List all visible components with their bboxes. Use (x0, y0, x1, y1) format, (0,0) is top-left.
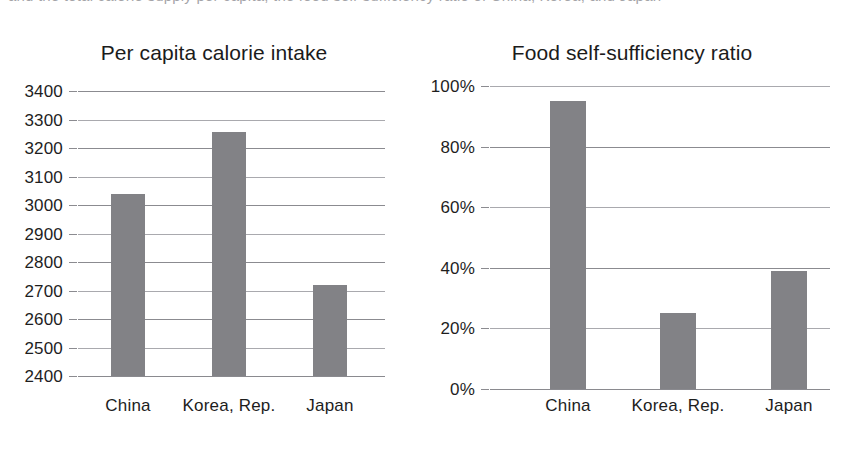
y-axis-tick (481, 328, 489, 329)
bar-japan (771, 271, 807, 389)
gridline (490, 147, 830, 148)
y-axis-tick (481, 147, 489, 148)
y-axis-label: 40% (413, 260, 475, 277)
y-axis-tick (69, 205, 77, 206)
y-axis-tick (481, 86, 489, 87)
y-axis-label: 3200 (1, 140, 63, 157)
bar-china (550, 101, 586, 389)
y-axis-tick (69, 120, 77, 121)
bar-korea-rep (212, 132, 246, 376)
chart-per-capita-calorie-intake: Per capita calorie intake 24002500260027… (0, 0, 424, 451)
bar-japan (313, 285, 347, 376)
chart-title-right: Food self-sufficiency ratio (420, 40, 844, 66)
chart-title-left: Per capita calorie intake (2, 40, 426, 66)
y-axis-label: 2900 (1, 226, 63, 243)
x-axis-label: Japan (260, 397, 400, 415)
y-axis-label: 2700 (1, 283, 63, 300)
y-axis-label: 2500 (1, 340, 63, 357)
y-axis-label: 3400 (1, 83, 63, 100)
y-axis-label: 3100 (1, 169, 63, 186)
y-axis-tick (69, 148, 77, 149)
y-axis-tick (69, 91, 77, 92)
bar-korea-rep (660, 313, 696, 389)
gridline (78, 376, 385, 377)
y-axis-label: 60% (413, 199, 475, 216)
bar-china (111, 194, 145, 376)
chart-food-self-sufficiency-ratio: Food self-sufficiency ratio 0%20%40%60%8… (424, 0, 848, 451)
y-axis-tick (69, 376, 77, 377)
gridline (490, 389, 830, 390)
y-axis-tick (69, 348, 77, 349)
plot-area-left: 2400250026002700280029003000310032003300… (78, 91, 385, 376)
plot-area-right: 0%20%40%60%80%100% (490, 86, 830, 389)
y-axis-label: 0% (413, 381, 475, 398)
y-axis-label: 2400 (1, 368, 63, 385)
y-axis-tick (69, 291, 77, 292)
gridline (490, 268, 830, 269)
y-axis-tick (69, 319, 77, 320)
y-axis-label: 100% (413, 78, 475, 95)
y-axis-tick (69, 262, 77, 263)
gridline (78, 120, 385, 121)
gridline (78, 91, 385, 92)
y-axis-tick (69, 234, 77, 235)
y-axis-label: 2800 (1, 254, 63, 271)
y-axis-label: 20% (413, 320, 475, 337)
gridline (490, 207, 830, 208)
gridline (490, 86, 830, 87)
y-axis-label: 2600 (1, 311, 63, 328)
x-axis-label: Japan (719, 397, 848, 415)
y-axis-tick (481, 268, 489, 269)
y-axis-label: 3000 (1, 197, 63, 214)
y-axis-tick (69, 177, 77, 178)
y-axis-label: 3300 (1, 112, 63, 129)
y-axis-label: 80% (413, 139, 475, 156)
y-axis-tick (481, 207, 489, 208)
y-axis-tick (481, 389, 489, 390)
